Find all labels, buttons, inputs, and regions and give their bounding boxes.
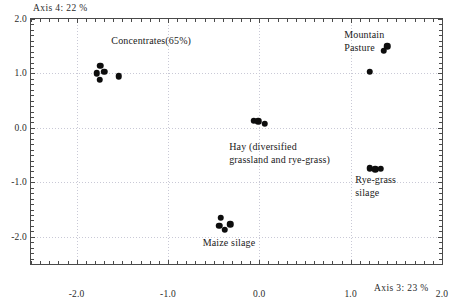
series-label-3: Rye-grass silage: [355, 174, 396, 199]
series-label-0: Concentrates(65%): [111, 35, 191, 48]
y-tick-label: 0.0: [15, 123, 31, 133]
series-label-4: Maize silage: [203, 237, 256, 250]
tick-mark: [442, 19, 443, 23]
x-tick-label: -2.0: [69, 289, 85, 299]
data-point: [96, 77, 103, 84]
data-point: [101, 69, 108, 76]
data-point: [262, 120, 269, 127]
series-label-1: Mountain Pasture: [344, 29, 384, 54]
data-point: [367, 69, 374, 76]
x-tick-label: 2.0: [436, 289, 448, 299]
x-tick-label: -1.0: [160, 289, 176, 299]
y-tick-label: 2.0: [15, 14, 31, 24]
y-axis-caption: Axis 4: 22 %: [33, 3, 88, 13]
y-tick-label: -1.0: [11, 177, 31, 187]
data-point: [94, 70, 101, 77]
x-tick-label: 1.0: [344, 289, 356, 299]
data-point: [227, 221, 234, 228]
scatter-plot-figure: Axis 4: 22 % Concentrates(65%)Mountain P…: [0, 0, 457, 299]
x-axis-caption: Axis 3: 23 %: [374, 283, 429, 293]
data-points-layer: Concentrates(65%)Mountain PastureHay (di…: [31, 19, 442, 264]
data-point: [378, 165, 385, 172]
data-point: [221, 226, 228, 233]
tick-mark: [439, 264, 442, 265]
x-tick-label: 0.0: [253, 289, 265, 299]
tick-mark: [31, 264, 34, 265]
data-point: [218, 214, 225, 221]
plot-area: Concentrates(65%)Mountain PastureHay (di…: [30, 18, 443, 265]
series-label-2: Hay (diversified grassland and rye-grass…: [229, 141, 330, 166]
y-tick-label: -2.0: [11, 232, 31, 242]
data-point: [115, 73, 122, 80]
tick-mark: [442, 260, 443, 264]
y-tick-label: 1.0: [15, 68, 31, 78]
